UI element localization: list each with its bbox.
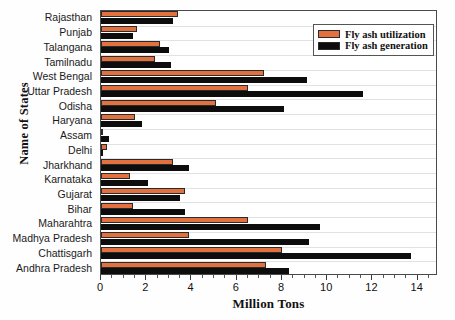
- bar-generation: [101, 268, 289, 274]
- x-tick-major: [236, 275, 237, 280]
- legend-swatch-generation: [318, 42, 340, 50]
- x-axis-tick-label: 0: [97, 281, 103, 293]
- y-axis-tick-label: Tamilnadu: [44, 57, 92, 67]
- x-tick-minor: [292, 275, 293, 278]
- y-axis-tick-label: Madhya Pradesh: [13, 233, 92, 243]
- y-axis-tick-label: Andhra Pradesh: [16, 263, 92, 273]
- bar-generation: [101, 18, 173, 24]
- bar-utilization: [101, 173, 130, 179]
- x-tick-major: [371, 275, 372, 280]
- bar-generation: [101, 239, 309, 245]
- bar-generation: [101, 150, 103, 156]
- bar-generation: [101, 33, 133, 39]
- x-tick-minor: [360, 275, 361, 278]
- bar-utilization: [101, 144, 107, 150]
- y-axis-tick-label: Uttar Pradesh: [27, 86, 92, 96]
- bar-group: [101, 232, 438, 246]
- x-tick-minor: [202, 275, 203, 278]
- y-axis-tick-label: Haryana: [52, 115, 92, 125]
- x-tick-major: [145, 275, 146, 280]
- legend-swatch-utilization: [318, 30, 340, 38]
- x-tick-minor: [349, 275, 350, 278]
- bar-group: [101, 247, 438, 261]
- bar-group: [101, 114, 438, 128]
- bar-group: [101, 129, 438, 143]
- legend-item-utilization: Fly ash utilization: [318, 29, 428, 40]
- bar-generation: [101, 62, 171, 68]
- fly-ash-bar-chart: Name of States RajasthanPunjabTalanganaT…: [0, 0, 455, 320]
- bar-generation: [101, 224, 320, 230]
- y-axis-tick-label: Gujarat: [58, 189, 92, 199]
- y-axis-tick-label: Karnataka: [44, 174, 92, 184]
- bar-utilization: [101, 11, 178, 17]
- x-tick-major: [190, 275, 191, 280]
- y-axis-tick-labels: RajasthanPunjabTalanganaTamilnaduWest Be…: [0, 10, 97, 275]
- bar-utilization: [101, 114, 135, 120]
- y-axis-tick-label: Bihar: [67, 204, 92, 214]
- y-axis-tick-label: Chattisgarh: [38, 248, 92, 258]
- bar-utilization: [101, 203, 133, 209]
- bar-utilization: [101, 188, 185, 194]
- y-axis-tick-label: Maharahtra: [38, 218, 92, 228]
- y-axis-tick-label: Assam: [60, 130, 92, 140]
- bar-utilization: [101, 85, 248, 91]
- bar-generation: [101, 91, 363, 97]
- bar-utilization: [101, 159, 173, 165]
- bar-utilization: [101, 232, 189, 238]
- x-tick-minor: [123, 275, 124, 278]
- x-tick-minor: [270, 275, 271, 278]
- x-tick-minor: [337, 275, 338, 278]
- x-tick-major: [417, 275, 418, 280]
- x-tick-major: [281, 275, 282, 280]
- x-tick-minor: [394, 275, 395, 278]
- bar-utilization: [101, 217, 248, 223]
- x-axis-tick-label: 4: [187, 281, 193, 293]
- legend-label-utilization: Fly ash utilization: [345, 29, 426, 40]
- x-tick-minor: [213, 275, 214, 278]
- x-tick-minor: [134, 275, 135, 278]
- bar-utilization: [101, 70, 264, 76]
- bar-group: [101, 262, 438, 276]
- bar-generation: [101, 106, 284, 112]
- bar-utilization: [101, 247, 282, 253]
- bar-group: [101, 100, 438, 114]
- bar-group: [101, 56, 438, 70]
- x-axis-tick-label: 14: [411, 281, 423, 293]
- bar-utilization: [101, 262, 266, 268]
- bar-generation: [101, 47, 169, 53]
- y-axis-tick-label: West Bengal: [33, 71, 92, 81]
- x-tick-minor: [179, 275, 180, 278]
- x-tick-minor: [157, 275, 158, 278]
- bar-generation: [101, 180, 148, 186]
- bar-group: [101, 188, 438, 202]
- x-axis-title: Million Tons: [100, 296, 437, 312]
- x-tick-minor: [168, 275, 169, 278]
- bar-group: [101, 159, 438, 173]
- y-axis-tick-label: Odisha: [59, 101, 92, 111]
- y-axis-tick-label: Delhi: [68, 145, 92, 155]
- bar-generation: [101, 195, 180, 201]
- bar-generation: [101, 136, 109, 142]
- y-axis-tick-label: Talangana: [44, 42, 92, 52]
- y-axis-tick-label: Punjab: [59, 27, 92, 37]
- x-axis-tick-label: 8: [278, 281, 284, 293]
- bar-group: [101, 173, 438, 187]
- x-tick-major: [326, 275, 327, 280]
- x-axis-tick-label: 6: [233, 281, 239, 293]
- x-tick-minor: [247, 275, 248, 278]
- bar-group: [101, 85, 438, 99]
- bar-generation: [101, 77, 307, 83]
- x-axis-tick-label: 10: [320, 281, 332, 293]
- bar-group: [101, 70, 438, 84]
- bar-utilization: [101, 41, 160, 47]
- x-tick-minor: [383, 275, 384, 278]
- x-tick-major: [100, 275, 101, 280]
- x-axis-tick-label: 12: [365, 281, 377, 293]
- bar-utilization: [101, 129, 103, 135]
- bar-generation: [101, 209, 185, 215]
- bar-utilization: [101, 100, 216, 106]
- bar-generation: [101, 253, 411, 259]
- x-tick-minor: [405, 275, 406, 278]
- bar-group: [101, 144, 438, 158]
- legend-label-generation: Fly ash generation: [345, 40, 428, 51]
